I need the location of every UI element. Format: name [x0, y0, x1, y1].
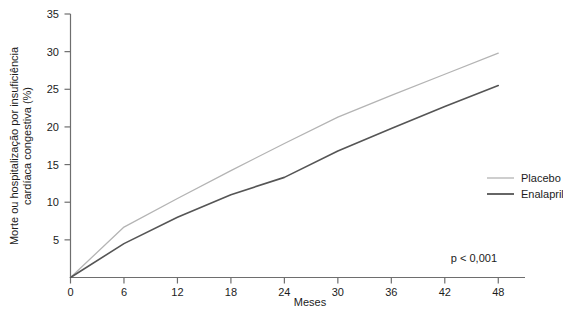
y-axis-title-line1: Morte ou hospitalização por insuficiênci…	[8, 46, 20, 245]
y-tick-label: 10	[47, 196, 59, 208]
y-tick-label: 25	[47, 83, 59, 95]
x-tick-label: 24	[278, 286, 290, 298]
pvalue-annotation: p < 0,001	[451, 252, 497, 264]
y-axis-title-line2: cardíaca congestiva (%)	[21, 87, 33, 205]
legend-label-enalapril: Enalapril	[521, 188, 563, 200]
x-tick-label: 0	[67, 286, 73, 298]
y-tick-label: 15	[47, 159, 59, 171]
y-tick-label: 5	[53, 234, 59, 246]
x-axis-title: Meses	[294, 296, 327, 308]
y-tick-label: 35	[47, 8, 59, 20]
chart-figure: 5101520253035 0612182430364248 PlaceboEn…	[0, 0, 563, 321]
x-tick-label: 42	[439, 286, 451, 298]
x-tick-label: 30	[332, 286, 344, 298]
line-chart-svg: 5101520253035 0612182430364248 PlaceboEn…	[0, 0, 563, 321]
y-tick-label: 20	[47, 121, 59, 133]
x-tick-label: 12	[171, 286, 183, 298]
x-tick-label: 36	[385, 286, 397, 298]
x-tick-label: 18	[225, 286, 237, 298]
legend-label-placebo: Placebo	[521, 172, 561, 184]
y-tick-label: 30	[47, 46, 59, 58]
chart-background	[0, 0, 563, 321]
x-tick-label: 6	[121, 286, 127, 298]
x-tick-label: 48	[492, 286, 504, 298]
